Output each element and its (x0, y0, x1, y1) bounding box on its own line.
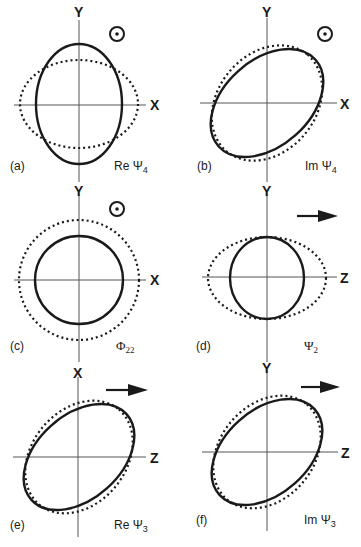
out-of-page-dot-icon (110, 27, 124, 41)
panel-b: X Y (b) Im Ψ4 (189, 4, 350, 183)
out-of-page-dot-icon (318, 27, 332, 41)
h-axis-label: Z (150, 450, 159, 466)
panel-label: (b) (197, 159, 212, 173)
right-arrow-icon (106, 384, 148, 396)
panel-label: (e) (10, 518, 25, 532)
h-axis-label: Z (340, 270, 349, 286)
v-axis-label: X (73, 365, 83, 381)
function-label: Re Ψ3 (114, 518, 148, 534)
h-axis-label: X (150, 272, 160, 288)
function-label: Im Ψ3 (304, 513, 336, 529)
v-axis-label: Y (262, 360, 272, 376)
h-axis-label: X (150, 97, 160, 113)
out-of-page-dot-icon (110, 202, 124, 216)
h-axis-label: Z (341, 445, 350, 461)
v-axis-label: Y (262, 4, 272, 20)
function-label: Φ22 (116, 338, 135, 355)
panel-f: Z Y (f) Im Ψ3 (191, 360, 350, 531)
v-axis-label: Y (74, 4, 84, 20)
panel-d: Z Y (d) Ψ2 (196, 183, 349, 362)
v-axis-label: Y (74, 183, 84, 199)
panel-label: (d) (196, 339, 211, 353)
panel-label: (a) (10, 159, 25, 173)
panel-label: (f) (196, 513, 207, 527)
function-label: Im Ψ4 (305, 159, 337, 175)
panel-label: (c) (10, 339, 24, 353)
right-arrow-icon (297, 210, 338, 222)
h-axis-label: X (340, 96, 350, 112)
v-axis-label: Y (262, 183, 272, 199)
function-label: Ψ2 (304, 338, 318, 355)
panel-a: X Y (a) Re Ψ4 (10, 4, 160, 182)
right-arrow-icon (301, 381, 340, 393)
panel-e: Z X (e) Re Ψ3 (3, 365, 159, 537)
function-label: Re Ψ4 (114, 159, 148, 175)
panel-c: X Y (c) Φ22 (10, 183, 160, 362)
polarization-diagram-figure: X Y (a) Re Ψ4 X Y (b) Im Ψ4 X Y (0, 0, 361, 547)
